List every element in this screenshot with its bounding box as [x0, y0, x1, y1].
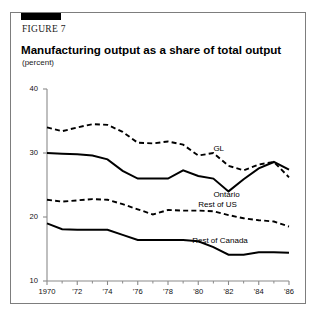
x-axis-tick-label: '84: [254, 287, 264, 296]
series-annotation-rest-of-canada: Rest of Canada: [192, 236, 248, 245]
series-annotation-gl: GL: [213, 144, 224, 153]
x-axis-tick-label: '72: [72, 287, 82, 296]
y-axis-tick-label: 40: [18, 84, 38, 93]
x-axis-tick-label: '80: [193, 287, 203, 296]
y-axis-tick-label: 30: [18, 148, 38, 157]
x-axis-tick-label: '82: [224, 287, 234, 296]
x-axis-tick-label: '86: [284, 287, 294, 296]
line-chart-canvas: [0, 0, 316, 314]
series-line-gl: [47, 124, 289, 177]
y-axis-tick-label: 20: [18, 212, 38, 221]
x-axis-tick-label: 1970: [39, 287, 56, 296]
series-line-ontario: [47, 153, 289, 191]
x-axis-tick-label: '74: [103, 287, 113, 296]
series-annotation-ontario: Ontario: [213, 190, 239, 199]
plot-area: 102030401970'72'74'76'78'80'82'84'86GLOn…: [0, 0, 316, 314]
y-axis-tick-label: 10: [18, 276, 38, 285]
x-axis-tick-label: '78: [163, 287, 173, 296]
series-line-rest-of-us: [47, 199, 289, 227]
series-line-rest-of-canada: [47, 223, 289, 254]
x-axis-tick-label: '76: [133, 287, 143, 296]
series-annotation-rest-of-us: Rest of US: [198, 200, 237, 209]
figure-screenshot: FIGURE 7 Manufacturing output as a share…: [0, 0, 316, 314]
